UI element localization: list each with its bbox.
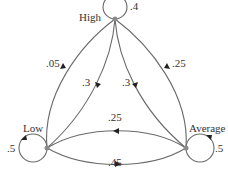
arrow-self-average-icon [206, 135, 212, 140]
prob-high-average: .3 [122, 76, 131, 88]
node-average [184, 146, 189, 151]
node-label-high: High [79, 11, 102, 23]
markov-chain-diagram: High Low Average .4 .5 .5 .05 .3 .3 .25 … [0, 0, 228, 169]
node-label-low: Low [23, 122, 43, 134]
prob-low-average: .45 [108, 156, 122, 168]
node-high [113, 17, 118, 22]
prob-average-high: .25 [172, 57, 186, 69]
node-low [45, 146, 50, 151]
node-label-average: Average [189, 122, 226, 134]
prob-high-low: .3 [82, 76, 91, 88]
edge-low-high [47, 19, 115, 148]
arrow-self-low-icon [21, 135, 27, 140]
arrow-average-high-icon [164, 63, 170, 69]
arrow-low-high-icon [60, 63, 66, 69]
edge-high-low [47, 19, 115, 148]
self-loop-high [103, 0, 127, 19]
prob-low-low: .5 [7, 142, 16, 154]
edge-average-low [47, 131, 186, 148]
prob-average-low: .25 [108, 111, 122, 123]
prob-average-average: .5 [215, 142, 224, 154]
arrow-average-low-icon [113, 128, 119, 134]
prob-low-high: .05 [46, 57, 60, 69]
prob-high-high: .4 [130, 0, 139, 12]
